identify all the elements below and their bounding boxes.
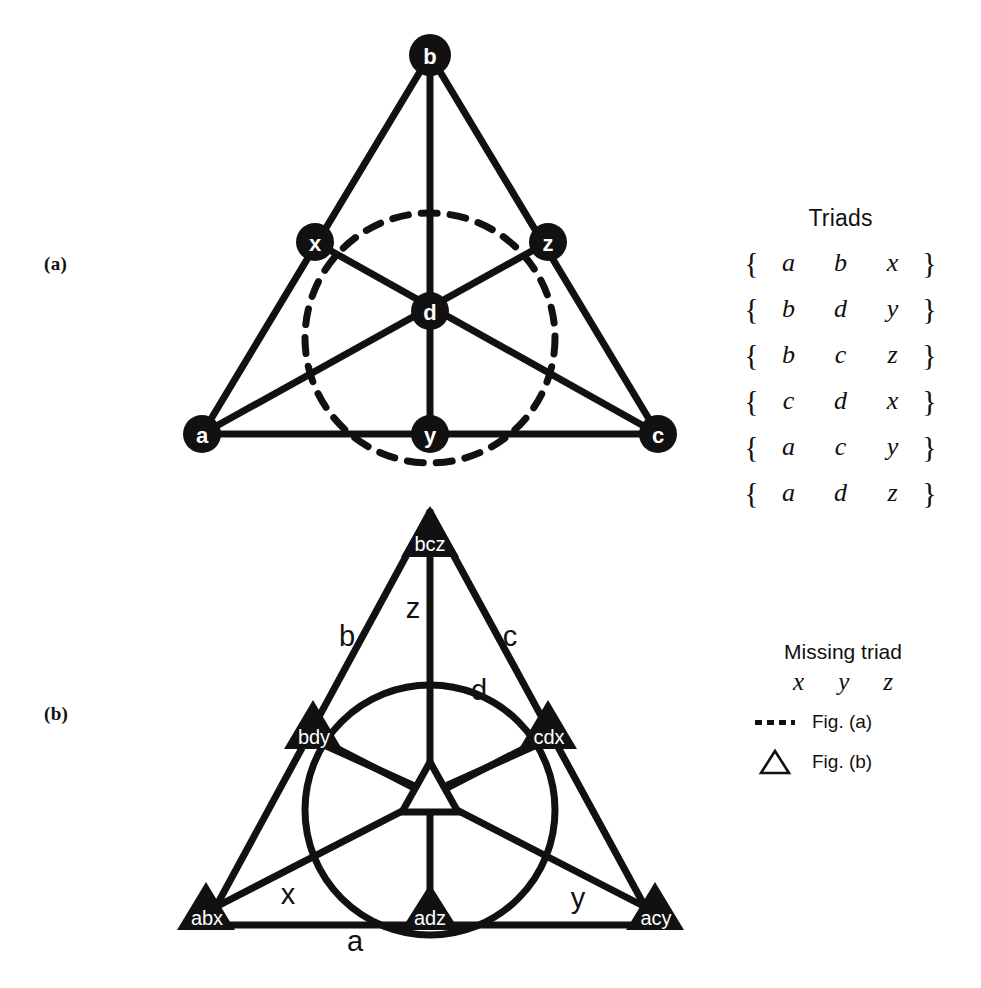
figure-root: b x z d a y c	[0, 0, 981, 988]
triad-cell: b	[815, 248, 867, 278]
legend-variables: x y z	[718, 668, 968, 696]
hollow-triangle-icon	[744, 748, 806, 776]
edge-label-z: z	[406, 592, 421, 624]
node-b[interactable]: b	[409, 34, 451, 76]
triad-cell: z	[867, 340, 919, 370]
triad-cell: c	[815, 432, 867, 462]
node-y-label: y	[424, 423, 437, 448]
node-bcz-label: bcz	[414, 533, 445, 555]
node-b-label: b	[423, 44, 436, 69]
legend-variable-x: x	[793, 668, 804, 696]
close-brace: }	[919, 340, 941, 370]
triad-cell: c	[763, 386, 815, 416]
triad-cell: a	[763, 248, 815, 278]
close-brace: }	[919, 432, 941, 462]
legend-entry-label: Fig. (a)	[806, 711, 872, 733]
close-brace: }	[919, 248, 941, 278]
open-brace: {	[741, 248, 763, 278]
triad-cell: d	[815, 294, 867, 324]
triad-cell: d	[815, 386, 867, 416]
triad-cell: b	[763, 340, 815, 370]
diagram-b-svg: bcz bdy cdx abx adz acy	[0, 480, 720, 988]
node-c[interactable]: c	[639, 415, 677, 453]
triads-block: Triads { a b x } { b d y } { b c z } { c…	[700, 205, 981, 516]
node-x[interactable]: x	[296, 223, 334, 261]
node-a-label: a	[196, 423, 209, 448]
node-z[interactable]: z	[529, 223, 567, 261]
triad-row: { b d y }	[700, 286, 981, 332]
triad-cell: d	[815, 478, 867, 508]
close-brace: }	[919, 294, 941, 324]
triad-cell: x	[867, 386, 919, 416]
triad-cell: c	[815, 340, 867, 370]
node-bcz[interactable]: bcz	[401, 506, 459, 557]
close-brace: }	[919, 478, 941, 508]
edge-label-x: x	[281, 878, 296, 910]
node-abx-label: abx	[191, 907, 223, 929]
open-brace: {	[741, 340, 763, 370]
node-c-label: c	[652, 423, 664, 448]
edge-label-y: y	[571, 882, 586, 914]
legend-variable-z: z	[883, 668, 893, 696]
triad-cell: y	[867, 294, 919, 324]
node-acy-label: acy	[640, 907, 671, 929]
edge-label-b: b	[339, 620, 355, 652]
panel-b-tag: (b)	[44, 703, 68, 725]
legend-title: Missing triad	[718, 640, 968, 664]
edge-label-c: c	[503, 620, 518, 652]
node-cdx-label: cdx	[533, 726, 564, 748]
node-adz[interactable]: adz	[401, 884, 459, 930]
node-a[interactable]: a	[183, 415, 221, 453]
triads-title: Triads	[700, 205, 981, 232]
edge-c-x	[315, 242, 658, 434]
triad-row: { a b x }	[700, 240, 981, 286]
diagram-a-panel: b x z d a y c	[0, 0, 720, 480]
close-brace: }	[919, 386, 941, 416]
triad-row: { b c z }	[700, 332, 981, 378]
triad-cell: b	[763, 294, 815, 324]
dashed-line-icon	[744, 720, 806, 725]
open-brace: {	[741, 478, 763, 508]
open-brace: {	[741, 386, 763, 416]
triad-cell: z	[867, 478, 919, 508]
legend-entry-label: Fig. (b)	[806, 751, 872, 773]
edge-label-a: a	[347, 925, 364, 957]
open-brace: {	[741, 294, 763, 324]
panel-a-tag: (a)	[44, 253, 67, 275]
triad-cell: a	[763, 478, 815, 508]
diagram-b-panel: bcz bdy cdx abx adz acy	[0, 480, 720, 988]
node-x-label: x	[309, 231, 322, 256]
node-d-label: d	[423, 300, 436, 325]
node-cdx[interactable]: cdx	[519, 700, 577, 749]
edge-a-z	[202, 242, 548, 434]
node-bdy[interactable]: bdy	[284, 700, 342, 749]
triad-cell: y	[867, 432, 919, 462]
node-z-label: z	[543, 231, 554, 256]
legend-block: Missing triad x y z Fig. (a) Fig. (b)	[718, 640, 968, 782]
node-bdy-label: bdy	[298, 726, 330, 748]
node-d[interactable]: d	[411, 292, 449, 330]
legend-variable-y: y	[838, 668, 849, 696]
edge-label-d: d	[471, 674, 487, 706]
node-adz-label: adz	[414, 907, 446, 929]
triad-cell: a	[763, 432, 815, 462]
open-brace: {	[741, 432, 763, 462]
triad-row: { c d x }	[700, 378, 981, 424]
diagram-a-svg: b x z d a y c	[0, 0, 720, 480]
triad-row: { a c y }	[700, 424, 981, 470]
legend-entry-fig-a: Fig. (a)	[718, 702, 968, 742]
node-y[interactable]: y	[411, 415, 449, 453]
triad-cell: x	[867, 248, 919, 278]
triad-row: { a d z }	[700, 470, 981, 516]
legend-entry-fig-b: Fig. (b)	[718, 742, 968, 782]
